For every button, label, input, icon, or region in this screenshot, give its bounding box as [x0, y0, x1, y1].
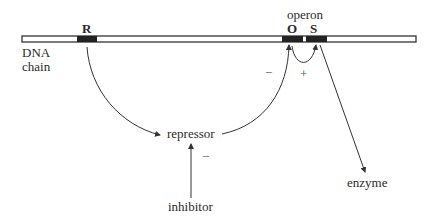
arrow-structural-to-enzyme	[320, 45, 365, 172]
inhibitor-node: inhibitor	[168, 200, 213, 214]
sign-inhibitor-to-repressor: −	[202, 150, 209, 163]
regulator-gene-label: R	[82, 22, 91, 36]
structural-gene-label: S	[310, 22, 317, 36]
dna-label-line1: DNA	[22, 46, 50, 60]
arrow-operator-to-structural	[292, 45, 316, 62]
repressor-node: repressor	[167, 127, 215, 141]
structural-gene-block	[306, 36, 327, 42]
operator-gene-label: O	[287, 22, 297, 36]
operator-gene-block	[282, 36, 303, 42]
enzyme-node: enzyme	[347, 176, 387, 190]
arrow-repressor-to-operator	[222, 45, 289, 134]
sign-operator-to-structural: +	[300, 67, 307, 80]
operon-label: operon	[287, 8, 323, 22]
dna-label-line2: chain	[22, 60, 50, 74]
regulator-gene-block	[77, 36, 97, 42]
sign-repressor-to-operator: −	[265, 66, 272, 79]
arrow-r-to-repressor	[87, 47, 160, 135]
